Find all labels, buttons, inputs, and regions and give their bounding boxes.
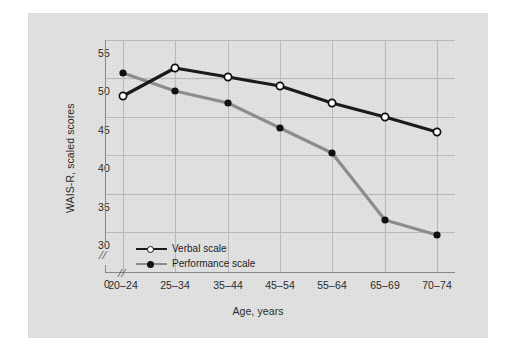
legend-marker-filled-circle-icon	[147, 261, 154, 268]
series-line-performance	[123, 73, 437, 235]
plot-area: WAIS-R, scaled scores 55 50 45 40 35 30 …	[28, 13, 488, 338]
data-point-verbal-45-54	[276, 82, 283, 89]
data-point-performance-25-34	[171, 87, 178, 94]
data-point-performance-70-74	[433, 231, 440, 238]
legend-item-verbal: Verbal scale	[136, 241, 255, 256]
data-point-verbal-55-64	[328, 99, 335, 106]
data-point-verbal-70-74	[433, 128, 440, 135]
data-point-performance-35-44	[224, 99, 231, 106]
x-tick-label-55-64: 55–64	[305, 279, 359, 291]
data-point-performance-20-24	[119, 69, 126, 76]
x-tick-label-65-69: 65–69	[358, 279, 412, 291]
data-point-verbal-35-44	[224, 73, 231, 80]
series-line-verbal	[123, 68, 437, 132]
data-point-verbal-65-69	[381, 113, 388, 120]
legend-swatch-verbal	[136, 244, 167, 254]
data-point-performance-55-64	[328, 149, 335, 156]
data-point-verbal-20-24	[119, 92, 126, 99]
data-point-verbal-25-34	[171, 64, 178, 71]
data-point-performance-45-54	[276, 124, 283, 131]
legend-label-performance: Performance scale	[172, 258, 255, 269]
legend-label-verbal: Verbal scale	[172, 243, 226, 254]
x-tick-label-20-24: 20–24	[96, 279, 150, 291]
legend-marker-open-circle-icon	[147, 246, 154, 253]
x-tick-label-70-74: 70–74	[410, 279, 464, 291]
legend: Verbal scale Performance scale	[136, 241, 255, 271]
legend-item-performance: Performance scale	[136, 256, 255, 271]
x-tick-label-35-44: 35–44	[201, 279, 255, 291]
figure-panel: WAIS-R, scaled scores 55 50 45 40 35 30 …	[28, 13, 488, 338]
x-tick-label-25-34: 25–34	[148, 279, 202, 291]
x-axis-label: Age, years	[28, 305, 488, 317]
data-point-performance-65-69	[381, 216, 388, 223]
legend-swatch-performance	[136, 259, 167, 269]
x-tick-label-45-54: 45–54	[253, 279, 307, 291]
